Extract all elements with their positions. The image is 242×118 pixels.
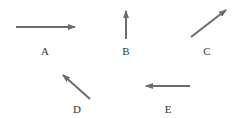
label-d: D	[73, 103, 81, 115]
label-a: A	[41, 45, 49, 57]
arrow-c-icon	[191, 10, 226, 37]
label-b: B	[122, 45, 129, 57]
arrow-d-icon	[63, 75, 90, 99]
label-c: C	[203, 45, 210, 57]
label-e: E	[165, 103, 172, 115]
arrow-diagram: A B C D E	[0, 0, 242, 118]
